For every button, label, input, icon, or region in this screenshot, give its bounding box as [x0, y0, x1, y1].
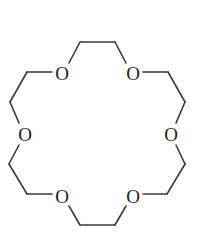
oxygen-atom-label: O — [18, 124, 32, 145]
oxygen-atom-label: O — [126, 63, 140, 84]
bond-group — [9, 42, 185, 225]
bond-line — [115, 42, 126, 63]
bond-line — [115, 206, 126, 225]
bond-line — [9, 164, 27, 194]
crown-ether-diagram: OOOOOO — [0, 0, 204, 238]
bond-line — [9, 145, 19, 164]
atom-group: OOOOOO — [18, 63, 178, 207]
bond-line — [168, 72, 185, 102]
oxygen-atom-label: O — [55, 63, 69, 84]
oxygen-atom-label: O — [55, 186, 69, 207]
bond-line — [69, 42, 80, 63]
molecule-structure: OOOOOO — [0, 0, 204, 238]
bond-line — [69, 206, 80, 225]
bond-line — [176, 102, 185, 123]
bond-line — [167, 164, 185, 194]
oxygen-atom-label: O — [126, 186, 140, 207]
bond-line — [10, 102, 19, 123]
oxygen-atom-label: O — [164, 124, 178, 145]
bond-line — [10, 72, 27, 102]
bond-line — [176, 145, 185, 164]
